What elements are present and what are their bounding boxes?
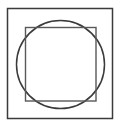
circle-shape	[17, 21, 105, 109]
figure-svg	[0, 0, 120, 127]
outer-square-shape	[8, 9, 113, 119]
inner-square-shape	[26, 28, 97, 102]
geometric-figure-canvas	[0, 0, 120, 127]
